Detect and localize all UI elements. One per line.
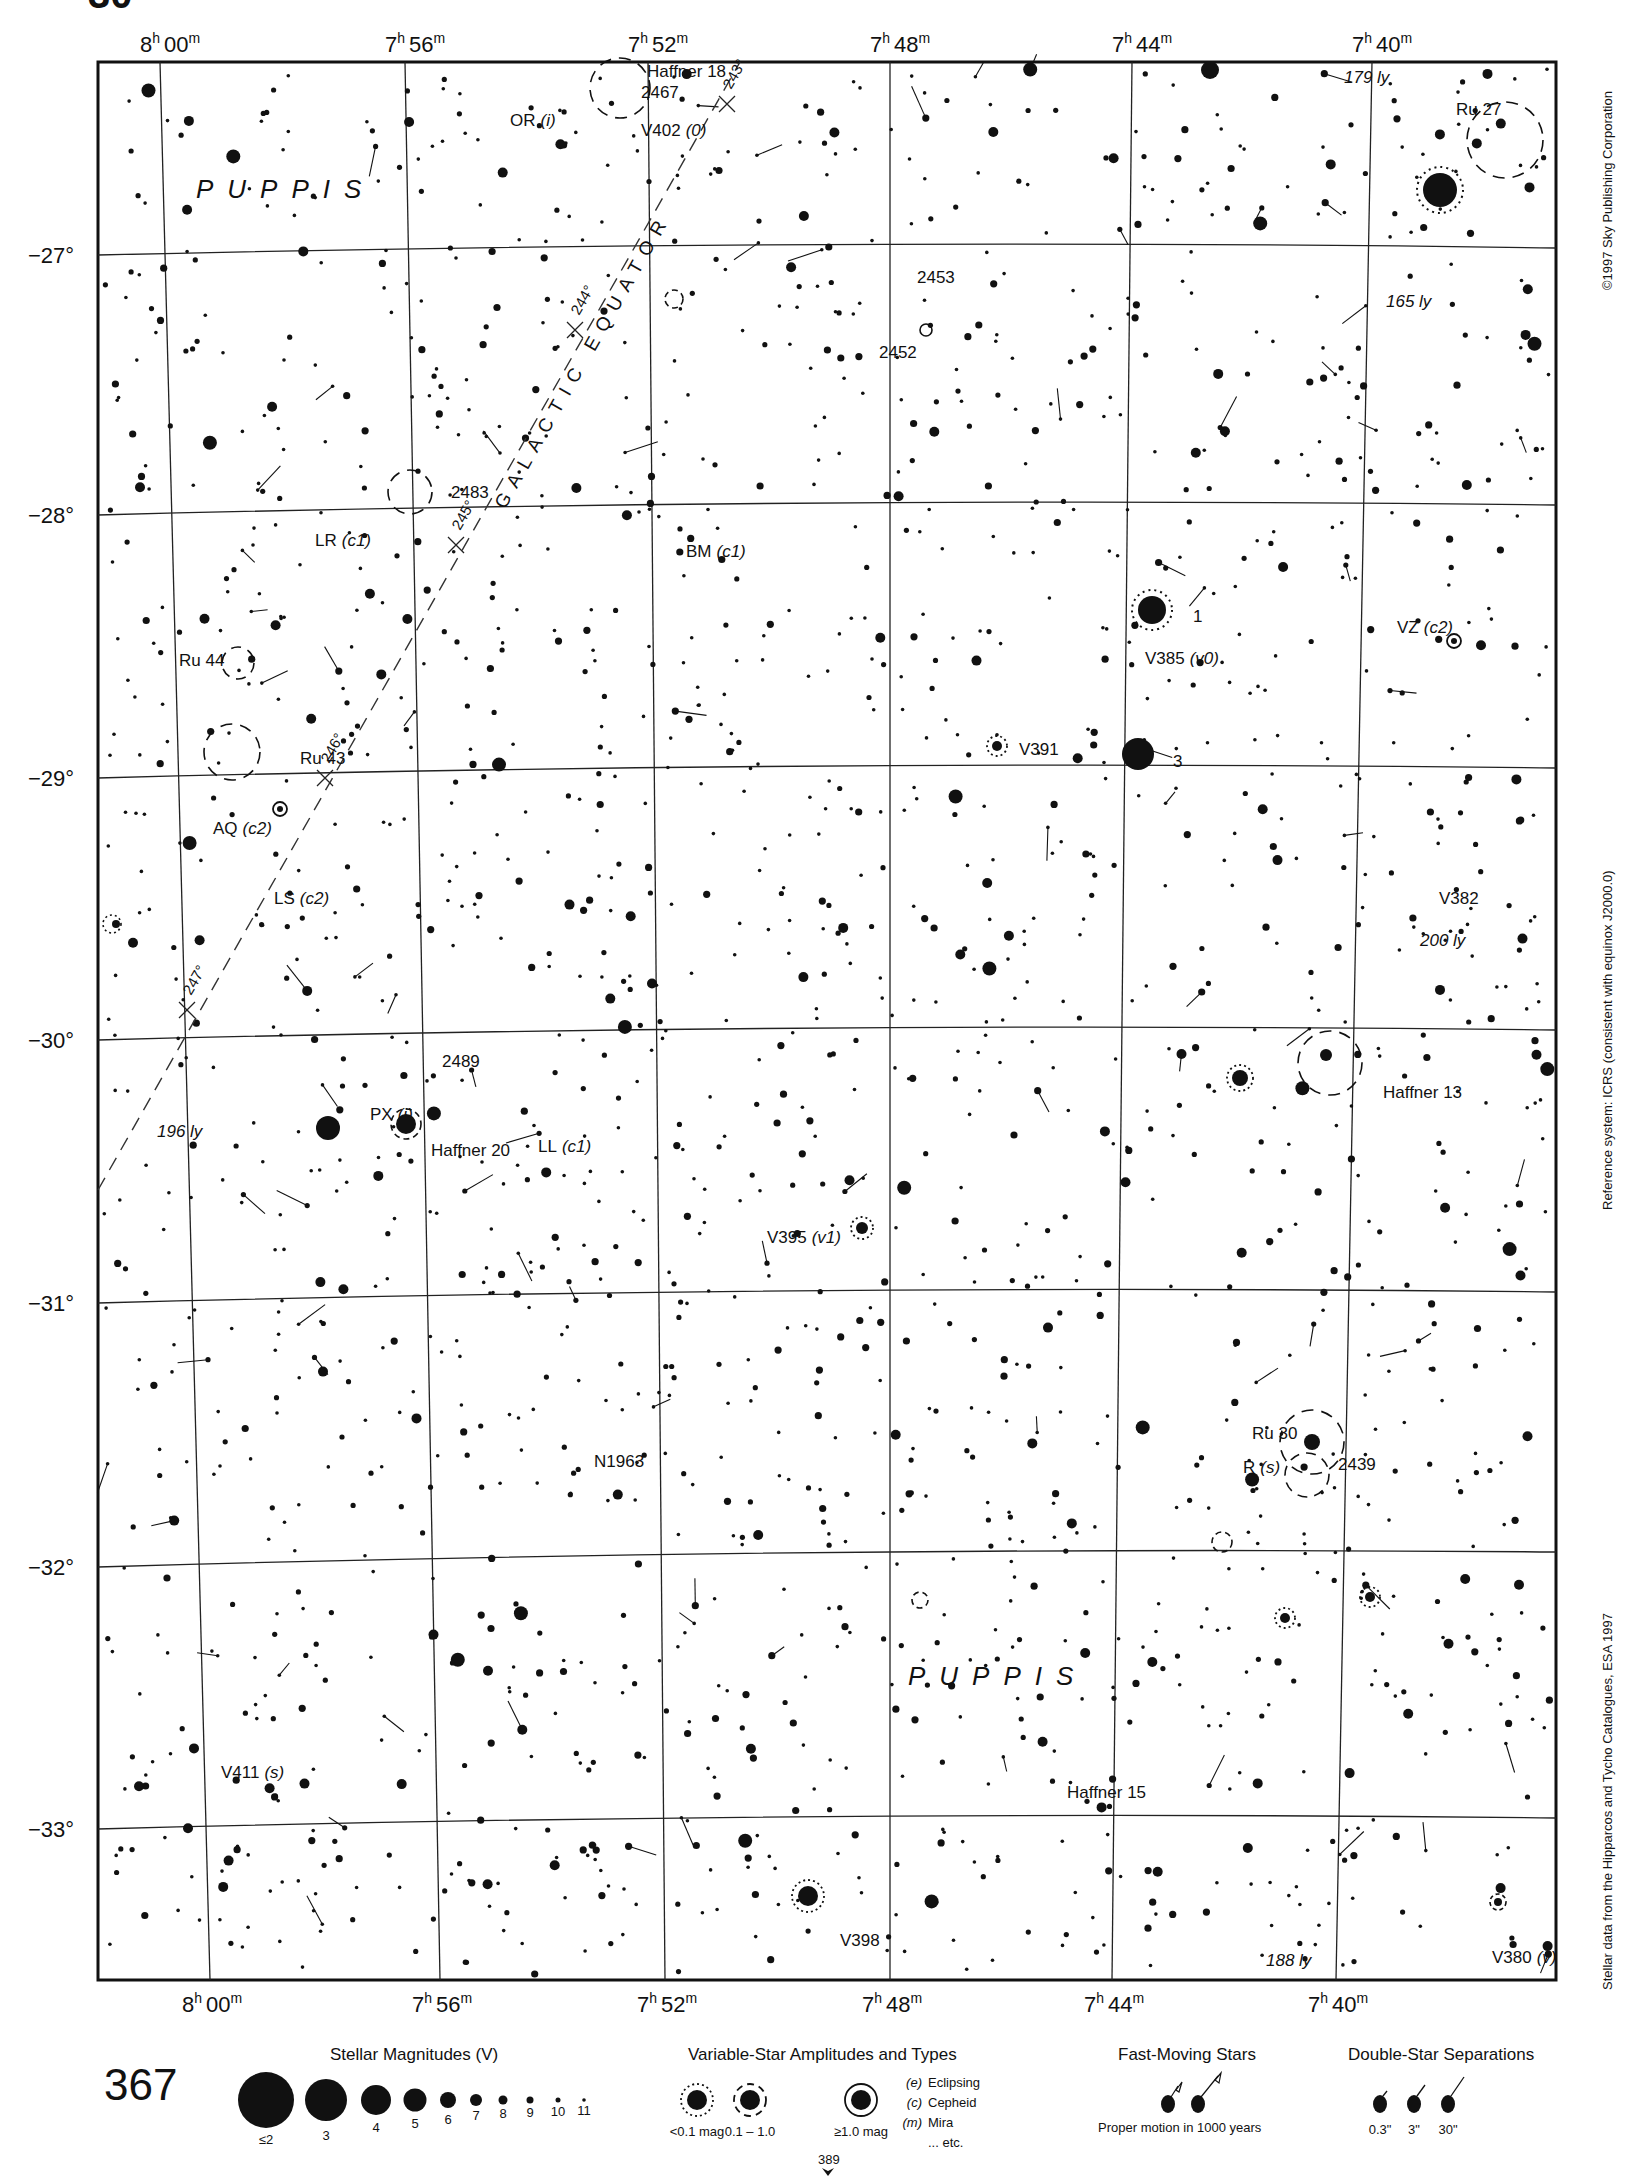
ra-tick-label: 7h48m: [870, 30, 930, 57]
object-label-variable: OR(i): [510, 111, 556, 130]
variable-type-name: Cepheid: [928, 2095, 976, 2110]
legend-fast-moving-title: Fast-Moving Stars: [1118, 2045, 1256, 2064]
object-label-cluster: Ru 27: [1456, 100, 1501, 119]
dec-tick-label: −31°: [28, 1291, 74, 1316]
fast-moving-caption: Proper motion in 1000 years: [1098, 2120, 1262, 2135]
ra-tick-label: 7h40m: [1352, 30, 1412, 57]
ra-tick-label: 7h52m: [637, 1990, 697, 2017]
continuation-arrow-icon: [822, 2168, 834, 2176]
object-label-variable: V398: [840, 1931, 880, 1950]
object-label-cluster: Haffner 18: [647, 62, 726, 81]
amplitude-label: ≥1.0 mag: [834, 2124, 888, 2139]
magnitude-dot: [404, 2089, 427, 2112]
legend-variables-title: Variable-Star Amplitudes and Types: [688, 2045, 957, 2064]
object-label-galaxy: N1963: [594, 1452, 644, 1471]
object-label-variable: LS(c2): [274, 889, 329, 908]
object-label-cluster: Ru 43: [300, 749, 345, 768]
magnitude-label: 7: [472, 2108, 479, 2123]
ra-tick-label: 7h40m: [1308, 1990, 1368, 2017]
constellation-label-bottom: PUPPIS: [908, 1661, 1087, 1691]
magnitude-label: 8: [499, 2106, 506, 2121]
magnitude-scale: ≤234567891011: [238, 2072, 591, 2147]
variable-amplitude-symbols: [681, 2084, 877, 2116]
variable-type-name: Eclipsing: [928, 2075, 980, 2090]
object-label-cluster: 2489: [442, 1052, 480, 1071]
magnitude-dot: [361, 2085, 391, 2115]
object-label-variable: V385(v0): [1145, 649, 1219, 668]
object-label-nebula: 2467: [641, 83, 679, 102]
object-label-variable: V402(0): [641, 121, 706, 140]
dec-tick-label: −32°: [28, 1555, 74, 1580]
ra-tick-label: 7h44m: [1084, 1990, 1144, 2017]
magnitude-label: 10: [551, 2104, 565, 2119]
object-label-cluster: 2453: [917, 268, 955, 287]
magnitude-label: ≤2: [259, 2132, 273, 2147]
magnitude-dot: [499, 2096, 508, 2105]
magnitude-label: 6: [444, 2112, 451, 2127]
dec-axis: −27°−28°−29°−30°−31°−32°−33°: [28, 243, 74, 1842]
plate-number: 367: [104, 2060, 177, 2109]
magnitude-label: 4: [372, 2120, 379, 2135]
legend-doubles-title: Double-Star Separations: [1348, 2045, 1534, 2064]
object-label-cluster: Ru 44: [179, 651, 224, 670]
object-label-variable: R(s): [1243, 1458, 1280, 1477]
bright-star-marker: [1423, 173, 1457, 207]
object-label-variable: LL(c1): [538, 1137, 591, 1156]
double-separation-label: 3": [1408, 2122, 1420, 2137]
magnitude-dot: [238, 2072, 294, 2128]
object-label-variable: V382: [1439, 889, 1479, 908]
object-label-distance: 165 ly: [1386, 292, 1433, 311]
ra-tick-label: 8h00m: [140, 30, 200, 57]
dec-tick-label: −33°: [28, 1817, 74, 1842]
magnitude-dot: [470, 2094, 482, 2106]
object-label-variable: V411(s): [221, 1763, 284, 1782]
object-label-variable: BM(c1): [686, 542, 746, 561]
dec-tick-label: −27°: [28, 243, 74, 268]
page-header-fragment: 30: [88, 0, 133, 16]
ra-axis-top: 8h00m7h56m7h52m7h48m7h44m7h40m: [140, 30, 1412, 57]
object-label-variable: V380(v): [1492, 1948, 1557, 1967]
object-label-variable: AQ(c2): [213, 819, 272, 838]
legend: 367 Stellar Magnitudes (V) ≤234567891011…: [104, 2045, 1534, 2176]
ra-tick-label: 7h48m: [862, 1990, 922, 2017]
constellation-label-top: PUPPIS: [196, 174, 375, 204]
object-label-cluster: 2483: [451, 483, 489, 502]
proper-motion-symbols: [1161, 2073, 1221, 2113]
object-label-variable: LR(c1): [315, 531, 371, 550]
amplitude-label: <0.1 mag: [670, 2124, 725, 2139]
ra-tick-label: 7h56m: [385, 30, 445, 57]
amplitude-label: 0.1 – 1.0: [725, 2124, 776, 2139]
object-label-distance: 196 ly: [157, 1122, 204, 1141]
dec-tick-label: −29°: [28, 766, 74, 791]
object-label-variable: PX(i): [370, 1105, 413, 1124]
object-label-star-number: 3: [1173, 752, 1182, 771]
object-label-variable: VZ(c2): [1397, 618, 1453, 637]
variable-type-code: (m): [903, 2115, 923, 2130]
magnitude-label: 11: [577, 2103, 591, 2118]
variable-type-name: Mira: [928, 2115, 954, 2130]
reference-system-note: Reference system: ICRS (consistent with …: [1600, 870, 1615, 1210]
object-label-star-number: 1: [1193, 607, 1202, 626]
ra-tick-label: 8h00m: [182, 1990, 242, 2017]
magnitude-dot: [440, 2092, 456, 2108]
object-label-cluster: Haffner 15: [1067, 1783, 1146, 1802]
object-label-distance: 200 ly: [1419, 931, 1467, 950]
variable-type-code: (c): [907, 2095, 922, 2110]
continuation-page: 389: [818, 2152, 840, 2167]
object-label-planetary-nebula: 2452: [879, 343, 917, 362]
object-label-cluster: Ru 30: [1252, 1424, 1297, 1443]
object-label-cluster: Haffner 20: [431, 1141, 510, 1160]
object-label-variable: V391: [1019, 740, 1059, 759]
variable-type-code: (e): [906, 2075, 922, 2090]
object-label-cluster: Haffner 13: [1383, 1083, 1462, 1102]
copyright-note: ©1997 Sky Publishing Corporation: [1600, 91, 1615, 290]
object-label-distance: 188 ly: [1266, 1951, 1313, 1970]
magnitude-dot: [527, 2097, 534, 2104]
variable-type-name: ... etc.: [928, 2135, 963, 2150]
magnitude-label: 5: [411, 2116, 418, 2131]
data-source-note: Stellar data from the Hipparcos and Tych…: [1600, 1613, 1615, 1990]
magnitude-label: 9: [526, 2105, 533, 2120]
double-star-symbols: [1373, 2077, 1464, 2113]
ra-tick-label: 7h44m: [1112, 30, 1172, 57]
legend-magnitudes-title: Stellar Magnitudes (V): [330, 2045, 498, 2064]
